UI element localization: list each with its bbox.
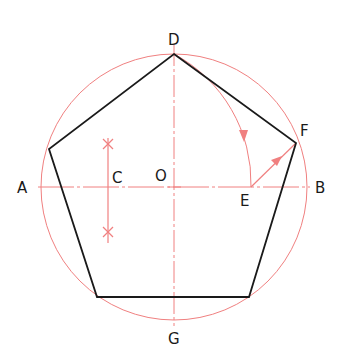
label-B: B [315, 179, 325, 197]
label-D: D [168, 31, 180, 49]
arc-D-to-E [174, 54, 251, 187]
label-C: C [112, 169, 122, 187]
label-E: E [240, 192, 249, 210]
label-G: G [168, 330, 180, 348]
label-A: A [17, 179, 28, 197]
EF-arrowhead-icon [271, 156, 282, 166]
label-O: O [155, 167, 167, 185]
label-F: F [300, 122, 309, 140]
arc-arrowhead-icon [239, 130, 248, 142]
regular-pentagon [49, 54, 296, 297]
pentagon-construction-diagram: A B C O D E F G [0, 0, 351, 364]
